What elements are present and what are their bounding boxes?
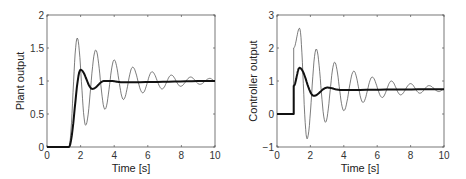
axes-box (277, 15, 444, 147)
y-tick-label: 0 (268, 109, 274, 120)
y-tick-label: 1 (268, 76, 274, 87)
controller-output-plot: 0246810−10123 (263, 10, 450, 162)
y-tick-label: 0.5 (30, 109, 44, 120)
x-tick-label: 0 (44, 150, 50, 161)
y-tick-label: −1 (263, 142, 275, 153)
x-axis-label-left: Time [s] (112, 162, 151, 174)
thick-response-line (277, 68, 444, 114)
x-tick-label: 8 (179, 150, 185, 161)
x-tick-label: 4 (111, 150, 117, 161)
x-axis-label-right: Time [s] (341, 162, 380, 174)
y-tick-label: 2 (268, 43, 274, 54)
y-tick-label: 1 (38, 76, 44, 87)
x-tick-label: 4 (341, 150, 347, 161)
x-tick-label: 6 (145, 150, 151, 161)
x-tick-label: 6 (374, 150, 380, 161)
plant-output-plot: 024681000.511.52 (30, 10, 221, 162)
y-tick-label: 0 (38, 142, 44, 153)
x-tick-label: 2 (308, 150, 314, 161)
x-tick-label: 10 (209, 150, 221, 161)
x-tick-label: 2 (78, 150, 84, 161)
x-tick-label: 0 (274, 150, 280, 161)
y-tick-label: 3 (268, 10, 274, 21)
y-axis-label-right: Controller output (247, 40, 259, 121)
thin-response-line (277, 28, 444, 139)
x-tick-label: 10 (438, 150, 450, 161)
chart-canvas: 024681000.511.52 0246810−10123 Time [s] … (0, 0, 466, 179)
y-tick-label: 1.5 (30, 43, 44, 54)
x-tick-label: 8 (408, 150, 414, 161)
y-axis-label-left: Plant output (14, 52, 26, 111)
y-tick-label: 2 (38, 10, 44, 21)
